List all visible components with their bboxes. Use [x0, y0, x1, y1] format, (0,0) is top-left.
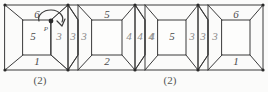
cube-4-top-number: 6: [233, 8, 239, 20]
cube-3-diagonal-bottom-right: [186, 55, 198, 70]
cube-4-diagonal-bottom-left: [208, 55, 222, 70]
point-p-vertex-dot: [49, 19, 54, 24]
cube-1-right-number: 3: [55, 30, 62, 42]
frame-corner-bottom-left: [3, 68, 6, 71]
seam-2-bottom-vertex: [133, 68, 136, 71]
caption-2: (2): [164, 74, 177, 87]
cube-4: 3 6 1: [208, 5, 263, 70]
seam-3-top-vertex: [196, 3, 199, 6]
cube-1-diagonal-bottom-left: [5, 55, 23, 70]
cube-1-front-number: 5: [30, 30, 36, 42]
cube-2-diagonal-top-left: [78, 5, 92, 20]
seam-3-bottom-vertex: [196, 68, 199, 71]
seam-2-left-number: 4: [137, 30, 143, 42]
cube-2-right-number: 4: [126, 30, 132, 42]
seam-1-left-number: 3: [69, 30, 76, 42]
cube-strip-diagram: 6 5 3 1 3 3 5 4 2: [0, 0, 268, 92]
cube-2-diagonal-bottom-left: [78, 55, 92, 70]
figure-canvas: 6 5 3 1 3 3 5 4 2: [0, 0, 268, 92]
seam-1-bottom-vertex: [66, 68, 69, 71]
cube-3-front-number: 5: [169, 30, 175, 42]
cube-4-diagonal-top-left: [208, 5, 222, 20]
seam-3-right-number: 3: [199, 30, 206, 42]
cube-2-top-number: 5: [104, 8, 110, 20]
cube-2-diagonal-bottom-right: [122, 55, 135, 70]
cube-1-bottom-number: 1: [34, 55, 40, 67]
caption-1: (2): [34, 74, 47, 87]
cube-4-bottom-number: 1: [233, 55, 239, 67]
rotation-arrow-head-icon: [57, 19, 65, 26]
cube-3-diagonal-top-left: [145, 5, 158, 20]
point-p-label: P: [43, 25, 49, 33]
cube-3-diagonal-bottom-left: [145, 55, 158, 70]
seam-1: 3 3: [66, 3, 87, 71]
cube-3-left-number: 4: [149, 30, 155, 42]
cube-4-diagonal-bottom-right: [250, 55, 263, 70]
cube-2-bottom-number: 2: [104, 55, 110, 67]
frame-corner-top-right: [261, 3, 264, 6]
seam-1-top-vertex: [66, 3, 69, 6]
cube-1-diagonal-top-left: [5, 5, 23, 20]
cube-3-right-number: 3: [188, 30, 195, 42]
cube-4-diagonal-top-right: [250, 5, 263, 20]
cube-1: 6 5 3 1: [5, 5, 68, 70]
cube-2-diagonal-top-right: [122, 5, 135, 20]
seam-2-top-vertex: [133, 3, 136, 6]
frame-corner-top-left: [3, 3, 6, 6]
seam-1-right-number: 3: [80, 30, 87, 42]
cube-3: 4 5 3: [145, 5, 198, 70]
cube-3-diagonal-top-right: [186, 5, 198, 20]
cube-4-left-number: 3: [211, 30, 218, 42]
seam-3: 3: [196, 3, 208, 71]
frame-corner-bottom-right: [261, 68, 264, 71]
